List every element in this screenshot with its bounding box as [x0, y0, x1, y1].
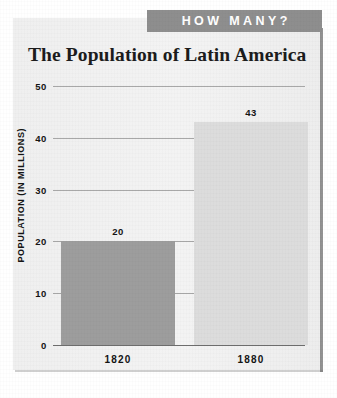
card-right-edge [320, 28, 323, 372]
chart-title: The Population of Latin America [28, 44, 310, 66]
plot-area: 01020304050201820431880 [53, 86, 305, 345]
bar-value-label-1880: 43 [194, 107, 308, 118]
y-tick-label-30: 30 [35, 184, 47, 195]
y-tick-label-10: 10 [35, 288, 47, 299]
x-tick-label-1880: 1880 [194, 354, 308, 365]
banner-label: HOW MANY? [178, 15, 290, 28]
chart-figure: HOW MANY? The Population of Latin Americ… [0, 0, 337, 398]
bar-1820: 20 [61, 241, 175, 345]
bar-1880: 43 [194, 122, 308, 345]
y-axis-title: POPULATION (IN MILLIONS) [16, 128, 26, 263]
y-tick-label-40: 40 [35, 132, 47, 143]
card-bottom-edge [15, 370, 323, 372]
how-many-banner: HOW MANY? [147, 10, 322, 32]
x-tick-label-1820: 1820 [61, 354, 175, 365]
y-tick-label-50: 50 [35, 81, 47, 92]
gridline-50 [53, 86, 305, 87]
gridline-0 [53, 345, 305, 346]
bar-value-label-1820: 20 [61, 226, 175, 237]
y-tick-label-0: 0 [41, 340, 47, 351]
y-tick-label-20: 20 [35, 236, 47, 247]
